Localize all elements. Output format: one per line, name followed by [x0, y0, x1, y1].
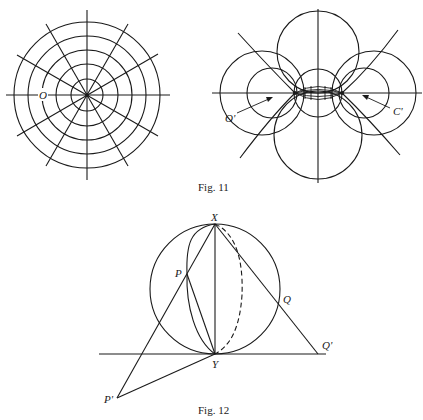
line-x-q-prime — [215, 224, 318, 354]
label-o-prime: O' — [225, 112, 236, 124]
label-p-prime: P' — [103, 393, 114, 405]
label-o: O — [39, 89, 47, 101]
label-x: X — [210, 211, 219, 223]
label-y: Y — [212, 358, 220, 370]
meridian-curve — [187, 224, 215, 354]
limit-point-left — [293, 91, 297, 95]
fig-12: X Y P P' Q Q' — [99, 211, 333, 405]
c-prime-arrow — [364, 96, 390, 108]
center-point — [85, 93, 89, 97]
polar-grid: O — [6, 10, 170, 180]
fig-11-caption: Fig. 11 — [198, 181, 229, 193]
coaxal-circles: O' C' — [212, 9, 422, 183]
limit-point-right — [340, 91, 344, 95]
fig-12-caption: Fig. 12 — [198, 404, 229, 416]
label-q-prime: Q' — [322, 339, 333, 351]
diagram-canvas: O O' C' Fig. 1 — [0, 0, 423, 420]
label-q: Q — [283, 293, 291, 305]
dashed-meridian — [215, 224, 242, 354]
label-c-prime: C' — [393, 105, 403, 117]
line-p-prime-y — [117, 354, 215, 398]
label-p: P — [174, 267, 182, 279]
